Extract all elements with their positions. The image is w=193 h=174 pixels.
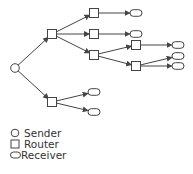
receiver-node xyxy=(172,53,184,60)
router-node xyxy=(90,30,99,39)
edge-arrow xyxy=(56,94,87,101)
receiver-node xyxy=(172,63,184,70)
oval-icon xyxy=(10,150,21,162)
receiver-node xyxy=(88,89,100,96)
legend-item-receiver: Receiver xyxy=(10,150,66,161)
legend-label: Receiver xyxy=(21,150,66,161)
edge-arrow xyxy=(140,58,171,65)
router-node xyxy=(132,41,141,50)
edge-arrow xyxy=(98,46,131,54)
legend: Sender Router Receiver xyxy=(10,128,66,161)
router-node xyxy=(48,98,57,107)
edge-arrow xyxy=(98,56,131,65)
edge-arrow xyxy=(56,103,87,110)
router-node xyxy=(90,9,99,18)
multicast-tree-diagram xyxy=(0,0,193,125)
receiver-node xyxy=(130,31,142,38)
edge-arrow xyxy=(18,37,48,65)
receiver-node xyxy=(130,10,142,17)
receiver-node xyxy=(172,42,184,49)
edges xyxy=(18,13,172,110)
receiver-node xyxy=(88,109,100,116)
router-node xyxy=(48,30,57,39)
router-node xyxy=(90,51,99,60)
sender-node xyxy=(11,64,20,73)
edge-arrow xyxy=(56,15,90,32)
edge-arrow xyxy=(18,71,48,99)
router-node xyxy=(132,62,141,71)
edge-arrow xyxy=(56,36,90,53)
nodes xyxy=(11,9,184,116)
